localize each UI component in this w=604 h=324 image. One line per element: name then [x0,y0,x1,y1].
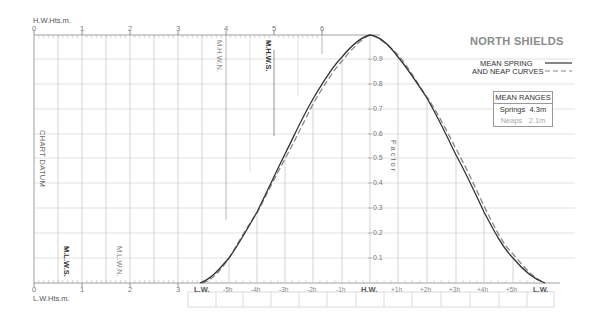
mean-ranges-header: MEAN RANGES [494,92,552,104]
height-gridlines [58,35,202,283]
top-tick-0: 0 [32,24,36,33]
chart-title: NORTH SHIELDS [470,35,564,47]
time-tick: +4h [477,286,488,293]
factor-tick: 0.2 [373,229,383,236]
springs-value: 4.3m [529,105,546,114]
bottom-tick-2: 2 [128,285,132,294]
top-tick-6: 6 [320,24,324,33]
mhws-label: M.H.W.S. [264,40,273,72]
top-tick-1: 1 [80,24,84,33]
chart-datum-label: CHART DATUM [38,130,47,187]
bottom-tick-3: 3 [176,285,180,294]
bottom-tick-0: 0 [32,285,36,294]
top-tick-4: 4 [224,24,228,33]
time-tick-hw: H.W. [361,285,377,294]
neaps-value: 2.1m [529,116,546,125]
factor-tick: 0.7 [373,105,383,112]
factor-label: Factor [389,140,398,173]
factor-tick: 0.1 [373,254,383,261]
time-tick-lw: L.W. [194,285,209,294]
factor-tick: 0.3 [373,204,383,211]
time-tick: -3h [279,286,288,293]
time-tick: -2h [307,286,316,293]
legend-neap-label: AND NEAP CURVES [472,67,543,76]
factor-gridlines [34,59,575,258]
time-tick-lw: L.W. [533,285,548,294]
neaps-row: Neaps 2.1m [494,115,552,126]
factor-tick: 0.8 [373,80,383,87]
time-tick: +1h [391,286,402,293]
tidal-curve-chart [0,0,604,324]
time-tick: +5h [506,286,517,293]
neaps-label: Neaps [501,116,523,125]
time-tick: -5h [223,286,232,293]
time-table [188,292,554,307]
mhwn-label: M.H.W.N. [215,40,224,72]
bottom-tick-1: 1 [80,285,84,294]
factor-tick: 0.6 [373,130,383,137]
mlws-label: M.L.W.S. [62,246,71,277]
bottom-axis-label: L.W.Hts.m. [33,294,70,303]
factor-tick: 0.5 [373,154,383,161]
top-axis-label: H.W.Hts.m. [33,16,71,25]
factor-tick: 0.4 [373,179,383,186]
springs-row: Springs 4.3m [494,104,552,115]
time-tick: +2h [420,286,431,293]
top-tick-2: 2 [128,24,132,33]
mlwn-label: M.L.W.N. [115,246,124,277]
top-tick-3: 3 [176,24,180,33]
factor-tick: 0.9 [373,55,383,62]
time-gridlines [229,35,513,283]
time-tick: -4h [251,286,260,293]
time-tick: +3h [449,286,460,293]
time-tick: -1h [336,286,345,293]
springs-label: Springs [500,105,525,114]
mean-ranges-box: MEAN RANGES Springs 4.3m Neaps 2.1m [493,91,553,127]
top-tick-5: 5 [272,24,276,33]
